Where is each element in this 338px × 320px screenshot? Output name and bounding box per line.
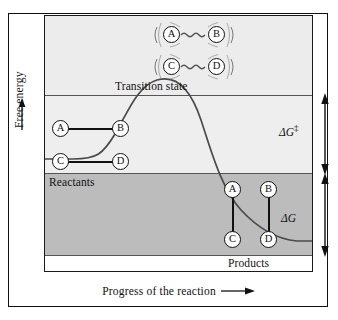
delta-g-activation-label: ΔG‡: [279, 123, 299, 138]
atom-c: C: [52, 153, 69, 170]
double-dagger-icon: ‡: [294, 123, 299, 133]
bond-a-b: [65, 128, 115, 130]
y-axis-label: Free energy: [13, 71, 25, 128]
atom-a: A: [52, 120, 69, 137]
x-axis-label: Progress of the reaction: [102, 285, 216, 297]
caption-products: Products: [228, 257, 269, 269]
atom-a: A: [224, 181, 241, 198]
delta-g-reaction-label: ΔG: [281, 212, 296, 224]
caption-transition-state: Transition state: [115, 80, 187, 92]
transition-state-molecule-cd: C D: [154, 54, 234, 80]
atom-d: D: [208, 58, 225, 75]
caption-reactants: Reactants: [49, 176, 95, 188]
bond-a-c: [232, 196, 234, 234]
bond-c-d: [65, 161, 115, 163]
reactants-molecules: A B C D: [50, 116, 140, 178]
atom-a: A: [163, 26, 180, 43]
transition-state-molecule-ab: A B: [154, 22, 234, 48]
band-products-strip: [45, 256, 312, 271]
energy-annotation-arrows: ΔG‡ ΔG: [313, 15, 338, 272]
plot-area: A B C D Transition state A B: [44, 15, 313, 272]
atom-b: B: [208, 26, 225, 43]
atom-c: C: [163, 58, 180, 75]
x-axis-label-row: Progress of the reaction: [44, 282, 313, 300]
atom-b: B: [260, 181, 277, 198]
atom-c: C: [224, 231, 241, 248]
atom-d: D: [260, 231, 277, 248]
free-energy-diagram-figure: Free energy: [0, 0, 338, 320]
atom-d: D: [112, 153, 129, 170]
delta-g-activation-text: ΔG: [279, 126, 294, 138]
bond-b-d: [268, 196, 270, 234]
double-headed-arrow-icons: [313, 15, 338, 272]
atom-b: B: [112, 120, 129, 137]
right-arrow-icon: [221, 286, 255, 296]
